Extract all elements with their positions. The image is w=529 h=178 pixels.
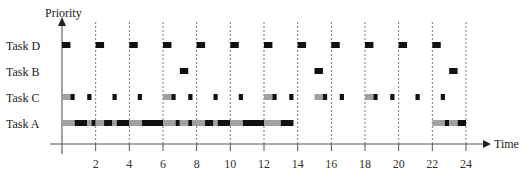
- tick-label: 4: [126, 157, 132, 171]
- segment-task-c: [113, 94, 117, 100]
- x-ticks: 24681012141618202224: [93, 144, 472, 171]
- row-label-task-a: Task A: [6, 117, 40, 131]
- segment-task-b: [315, 68, 323, 74]
- segment-task-d: [230, 42, 238, 48]
- segment-task-c: [272, 94, 276, 100]
- segment-task-a: [458, 120, 466, 126]
- segment-task-a: [205, 120, 213, 126]
- segment-task-c: [87, 94, 91, 100]
- segment-task-a: [218, 120, 231, 126]
- tick-label: 8: [194, 157, 200, 171]
- segment-task-c: [340, 94, 344, 100]
- segment-task-d: [264, 42, 272, 48]
- segment-task-a: [180, 120, 188, 126]
- tick-label: 18: [359, 157, 371, 171]
- segment-task-c: [62, 94, 70, 100]
- segment-task-c: [373, 94, 377, 100]
- segment-task-a: [117, 120, 130, 126]
- row-labels: Task D Task B Task C Task A: [6, 39, 40, 131]
- segment-task-b: [180, 68, 188, 74]
- segment-task-a: [87, 120, 91, 126]
- row-label-task-d: Task D: [6, 39, 40, 53]
- segment-task-c: [239, 94, 243, 100]
- x-axis-label: Time: [494, 137, 519, 151]
- segment-task-b: [449, 68, 457, 74]
- segment-task-a: [62, 120, 75, 126]
- row-label-task-c: Task C: [6, 91, 40, 105]
- segment-task-c: [365, 94, 373, 100]
- segment-task-a: [142, 120, 163, 126]
- tick-label: 24: [460, 157, 472, 171]
- segment-task-a: [214, 120, 218, 126]
- segment-task-d: [96, 42, 104, 48]
- segment-task-d: [197, 42, 205, 48]
- segment-task-a: [96, 120, 104, 126]
- segment-task-a: [432, 120, 445, 126]
- segment-task-a: [192, 120, 205, 126]
- segment-task-c: [289, 94, 293, 100]
- segment-task-a: [188, 120, 192, 126]
- segment-task-a: [445, 120, 449, 126]
- segment-task-c: [163, 94, 171, 100]
- segment-task-a: [91, 120, 95, 126]
- segment-task-c: [416, 94, 420, 100]
- tick-label: 22: [426, 157, 438, 171]
- task-schedule-diagram: Priority Time Task D Task B Task C Task …: [0, 0, 529, 178]
- segment-task-d: [365, 42, 373, 48]
- segment-task-a: [230, 120, 243, 126]
- segment-task-c: [214, 94, 218, 100]
- segment-task-d: [129, 42, 137, 48]
- tick-label: 12: [258, 157, 270, 171]
- segment-task-d: [331, 42, 339, 48]
- segment-task-a: [104, 120, 112, 126]
- segment-task-c: [323, 94, 327, 100]
- segment-task-c: [390, 94, 394, 100]
- segment-task-a: [281, 120, 294, 126]
- segment-task-d: [62, 42, 70, 48]
- segment-task-c: [315, 94, 323, 100]
- tick-label: 20: [393, 157, 405, 171]
- row-label-task-b: Task B: [6, 65, 40, 79]
- segment-task-c: [441, 94, 445, 100]
- segment-task-a: [163, 120, 176, 126]
- segment-task-d: [399, 42, 407, 48]
- segment-task-a: [176, 120, 180, 126]
- segment-task-d: [432, 42, 440, 48]
- segment-task-c: [70, 94, 74, 100]
- segment-task-c: [264, 94, 272, 100]
- tick-label: 16: [325, 157, 337, 171]
- segment-task-c: [171, 94, 175, 100]
- segment-task-a: [264, 120, 281, 126]
- segment-task-a: [113, 120, 117, 126]
- segment-task-a: [75, 120, 88, 126]
- tick-label: 14: [292, 157, 304, 171]
- segment-task-a: [449, 120, 457, 126]
- segment-task-c: [188, 94, 192, 100]
- axes: Priority Time: [45, 6, 519, 154]
- segment-task-c: [138, 94, 142, 100]
- x-axis-arrow-icon: [483, 140, 491, 148]
- segment-task-a: [129, 120, 142, 126]
- segment-task-d: [163, 42, 171, 48]
- tick-label: 10: [224, 157, 236, 171]
- segment-task-a: [243, 120, 264, 126]
- y-axis-label: Priority: [45, 6, 82, 20]
- tick-label: 6: [160, 157, 166, 171]
- segment-task-d: [298, 42, 306, 48]
- tick-label: 2: [93, 157, 99, 171]
